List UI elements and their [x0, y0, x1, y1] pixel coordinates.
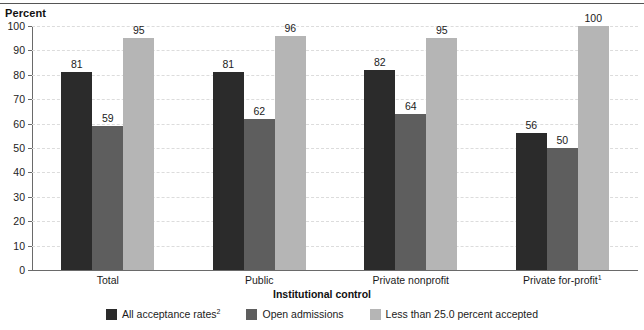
y-tick-label: 50	[13, 142, 25, 154]
bar-group: 5650100	[516, 26, 609, 270]
bar-value-label: 95	[133, 24, 145, 36]
y-tick-label: 0	[19, 264, 25, 276]
y-tick-label: 60	[13, 118, 25, 130]
y-tick-label: 90	[13, 44, 25, 56]
bar[interactable]: 50	[547, 148, 578, 270]
header-divider	[0, 3, 644, 4]
chart-legend: All acceptance rates2Open admissionsLess…	[0, 308, 644, 320]
legend-item[interactable]: Less than 25.0 percent accepted	[370, 308, 538, 320]
legend-swatch-icon	[246, 309, 257, 320]
bar-group: 826495	[364, 26, 457, 270]
y-tick-mark	[28, 99, 32, 100]
bar[interactable]: 95	[426, 38, 457, 270]
legend-label: All acceptance rates2	[122, 308, 220, 320]
category-label: Private nonprofit	[373, 274, 449, 286]
bar-value-label: 95	[436, 24, 448, 36]
y-tick-mark	[28, 124, 32, 125]
y-tick-mark	[28, 270, 32, 271]
y-tick-label: 80	[13, 69, 25, 81]
x-axis-line	[32, 270, 638, 271]
y-tick-mark	[28, 148, 32, 149]
y-tick-mark	[28, 50, 32, 51]
legend-label: Less than 25.0 percent accepted	[386, 308, 538, 320]
category-label: Total	[97, 274, 119, 286]
bar-value-label: 82	[374, 56, 386, 68]
bar-group: 816296	[213, 26, 306, 270]
bar-value-label: 56	[525, 119, 537, 131]
bar[interactable]: 59	[92, 126, 123, 270]
category-label: Private for-profit1	[523, 274, 602, 286]
bar[interactable]: 95	[123, 38, 154, 270]
legend-item[interactable]: All acceptance rates2	[106, 308, 220, 320]
y-tick-label: 40	[13, 166, 25, 178]
bar[interactable]: 81	[61, 72, 92, 270]
y-tick-mark	[28, 221, 32, 222]
y-tick-label: 20	[13, 215, 25, 227]
bar-value-label: 100	[584, 12, 602, 24]
y-tick-label: 10	[13, 240, 25, 252]
bar-value-label: 81	[222, 58, 234, 70]
footnote-marker: 2	[217, 308, 221, 315]
bar-value-label: 59	[102, 112, 114, 124]
y-tick-label: 70	[13, 93, 25, 105]
legend-swatch-icon	[106, 309, 117, 320]
category-label: Public	[245, 274, 274, 286]
y-tick-label: 100	[7, 20, 25, 32]
y-tick-mark	[28, 246, 32, 247]
bar[interactable]: 81	[213, 72, 244, 270]
bar-value-label: 81	[71, 58, 83, 70]
bar[interactable]: 64	[395, 114, 426, 270]
bar[interactable]: 100	[578, 26, 609, 270]
bar-value-label: 50	[556, 134, 568, 146]
legend-swatch-icon	[370, 309, 381, 320]
y-tick-mark	[28, 172, 32, 173]
x-axis-title: Institutional control	[0, 288, 644, 300]
y-axis-title: Percent	[5, 7, 46, 19]
bar-value-label: 96	[284, 22, 296, 34]
bar[interactable]: 96	[275, 36, 306, 270]
y-tick-mark	[28, 75, 32, 76]
plot-area: 0102030405060708090100 81599581629682649…	[32, 26, 638, 270]
y-tick-mark	[28, 197, 32, 198]
bar[interactable]: 56	[516, 133, 547, 270]
legend-item[interactable]: Open admissions	[246, 308, 343, 320]
chart-figure: Percent 0102030405060708090100 815995816…	[0, 0, 644, 330]
bar-value-label: 64	[405, 100, 417, 112]
legend-label: Open admissions	[262, 308, 343, 320]
y-tick-label: 30	[13, 191, 25, 203]
y-tick-mark	[28, 26, 32, 27]
footnote-marker: 1	[598, 274, 602, 281]
bar-value-label: 62	[253, 105, 265, 117]
bar[interactable]: 82	[364, 70, 395, 270]
bar-group: 815995	[61, 26, 154, 270]
bar[interactable]: 62	[244, 119, 275, 270]
